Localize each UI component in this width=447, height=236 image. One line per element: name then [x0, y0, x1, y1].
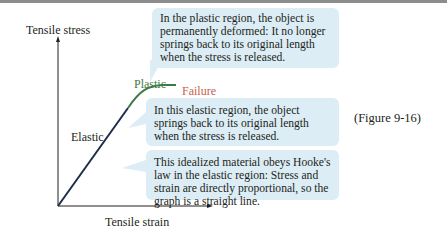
hooke-callout: This idealized material obeys Hooke's la… [146, 150, 339, 200]
plastic-callout-text: In the plastic region, the object is per… [160, 12, 331, 64]
elastic-label: Elastic [71, 131, 104, 143]
plastic-label: Plastic [134, 78, 166, 90]
elastic-line [58, 108, 128, 206]
failure-label: Failure [182, 85, 216, 97]
hooke-callout-tail [122, 160, 146, 172]
y-axis-label: Tensile stress [26, 24, 90, 36]
hooke-callout-text: This idealized material obeys Hooke's la… [154, 156, 331, 208]
figure-reference: (Figure 9-16) [354, 112, 421, 125]
x-axis-label: Tensile strain [105, 216, 169, 228]
plastic-callout: In the plastic region, the object is per… [152, 8, 339, 68]
elastic-callout-tail [128, 112, 146, 128]
elastic-callout: In this elastic region, the object sprin… [146, 98, 339, 146]
elastic-callout-text: In this elastic region, the object sprin… [154, 104, 331, 143]
